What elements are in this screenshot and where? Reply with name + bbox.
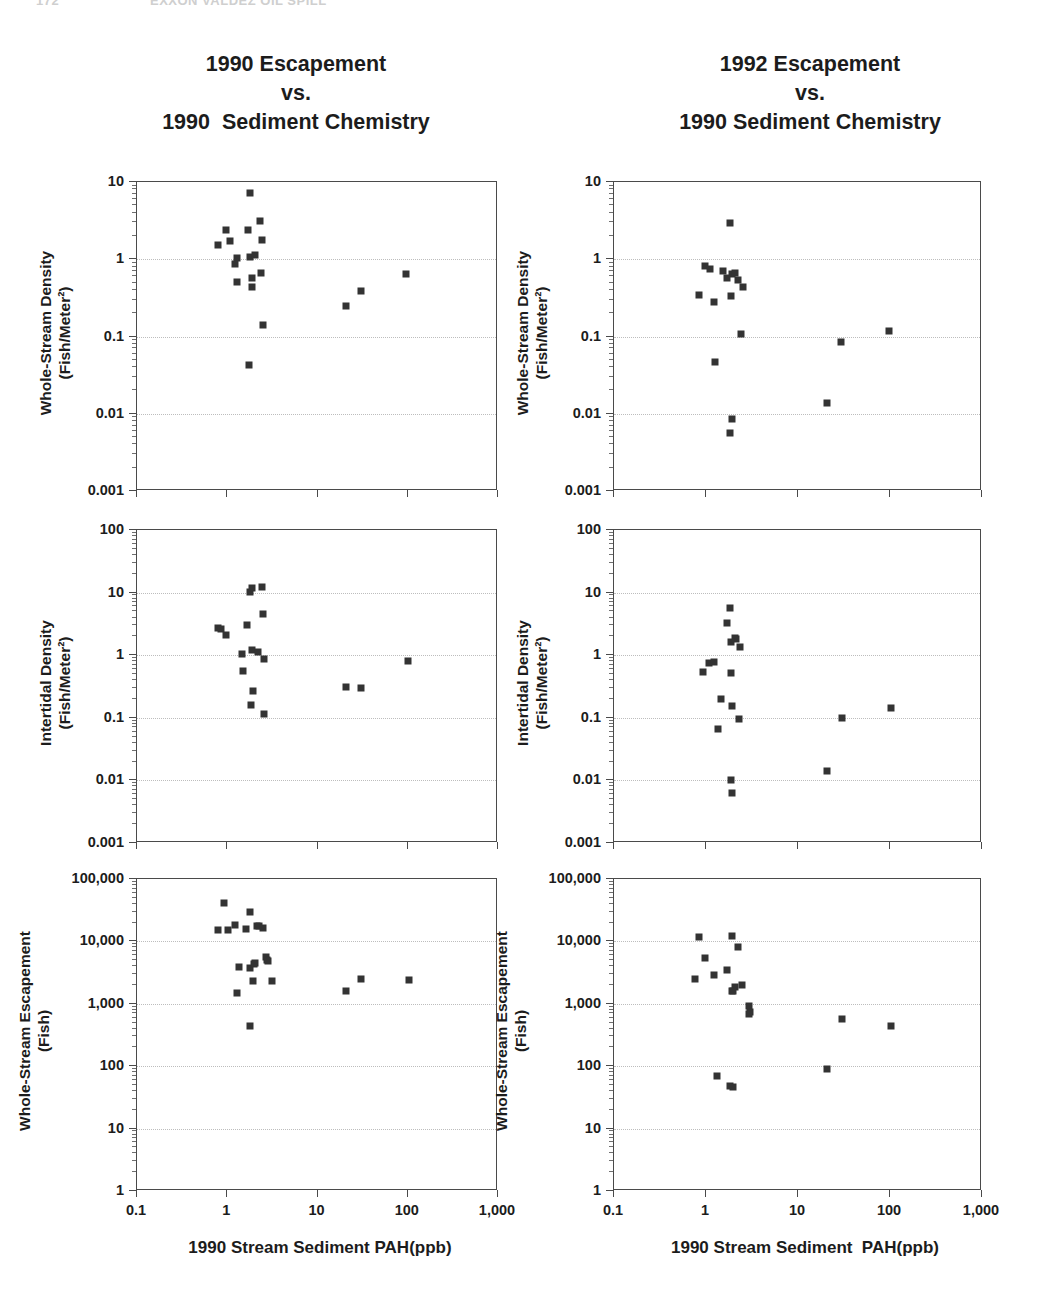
y-axis-title: Whole-Stream Escapement (Fish): [492, 855, 530, 1207]
y-axis-minor-tick: [609, 943, 613, 944]
y-axis-minor-tick: [609, 1134, 613, 1135]
y-axis-minor-tick: [609, 973, 613, 974]
plot-frame: [613, 878, 981, 1190]
y-axis-minor-tick: [609, 881, 613, 882]
y-axis-minor-tick: [609, 1109, 613, 1110]
data-point: [695, 934, 702, 941]
x-axis-tick-label: 100: [877, 1202, 901, 1218]
y-axis-minor-tick: [609, 954, 613, 955]
gridline-horizontal: [614, 1004, 980, 1005]
y-axis-minor-tick: [609, 922, 613, 923]
y-axis-minor-tick: [609, 1090, 613, 1091]
y-axis-minor-tick: [609, 1035, 613, 1036]
y-axis-minor-tick: [609, 950, 613, 951]
data-point: [724, 967, 731, 974]
y-axis-minor-tick: [609, 1079, 613, 1080]
y-axis-minor-tick: [609, 1141, 613, 1142]
data-point: [738, 981, 745, 988]
x-axis-tick-label: 0.1: [603, 1202, 623, 1218]
y-axis-minor-tick: [609, 1028, 613, 1029]
y-axis-minor-tick: [609, 1006, 613, 1007]
data-point: [729, 1084, 736, 1091]
y-axis-minor-tick: [609, 1130, 613, 1131]
x-axis-tick: [981, 1190, 982, 1197]
y-axis-minor-tick: [609, 1046, 613, 1047]
x-axis-title-right: 1990 Stream Sediment PAH(ppb): [585, 1238, 1025, 1258]
y-axis-minor-tick: [609, 965, 613, 966]
gridline-horizontal: [614, 1066, 980, 1067]
chart-panel-6: 100,00010,0001,0001001010.11101001,000Wh…: [0, 0, 1046, 1302]
y-axis-tick-label: 100: [541, 1057, 601, 1073]
y-axis-minor-tick: [609, 1146, 613, 1147]
y-axis-tick-label: 1,000: [541, 995, 601, 1011]
x-axis-tick: [797, 1190, 798, 1197]
data-point: [728, 932, 735, 939]
y-axis-minor-tick: [609, 1071, 613, 1072]
y-axis-tick: [606, 940, 613, 941]
x-axis-tick-label: 1,000: [963, 1202, 999, 1218]
data-point: [735, 944, 742, 951]
y-axis-minor-tick: [609, 1152, 613, 1153]
y-axis-minor-tick: [609, 1017, 613, 1018]
x-axis-tick-label: 1: [701, 1202, 709, 1218]
y-axis-minor-tick: [609, 1098, 613, 1099]
y-axis-minor-tick: [609, 1137, 613, 1138]
y-axis-minor-tick: [609, 1068, 613, 1069]
y-axis-minor-tick: [609, 892, 613, 893]
data-point: [713, 1073, 720, 1080]
y-axis-minor-tick: [609, 946, 613, 947]
y-axis-tick-label: 10,000: [541, 932, 601, 948]
data-point: [745, 1011, 752, 1018]
data-point: [887, 1023, 894, 1030]
x-axis-tick: [705, 1190, 706, 1197]
y-axis-minor-tick: [609, 897, 613, 898]
y-axis-tick: [606, 878, 613, 879]
y-axis-minor-tick: [609, 1160, 613, 1161]
gridline-horizontal: [614, 1129, 980, 1130]
x-axis-title-left: 1990 Stream Sediment PAH(ppb): [100, 1238, 540, 1258]
data-point: [823, 1065, 830, 1072]
y-axis-tick-label: 1: [541, 1182, 601, 1198]
x-axis-tick: [613, 1190, 614, 1197]
y-axis-minor-tick: [609, 911, 613, 912]
y-axis-minor-tick: [609, 1009, 613, 1010]
y-axis-minor-tick: [609, 1171, 613, 1172]
y-axis-minor-tick: [609, 1075, 613, 1076]
y-axis-tick-label: 10: [541, 1120, 601, 1136]
y-axis-minor-tick: [609, 884, 613, 885]
y-axis-tick: [606, 1003, 613, 1004]
y-axis-minor-tick: [609, 1084, 613, 1085]
data-point: [692, 975, 699, 982]
y-axis-tick-label: 100,000: [541, 870, 601, 886]
data-point: [702, 955, 709, 962]
gridline-horizontal: [614, 941, 980, 942]
y-axis-tick: [606, 1065, 613, 1066]
data-point: [729, 988, 736, 995]
y-axis-minor-tick: [609, 1012, 613, 1013]
data-point: [710, 972, 717, 979]
x-axis-tick: [889, 1190, 890, 1197]
y-axis-minor-tick: [609, 1022, 613, 1023]
x-axis-tick-label: 10: [789, 1202, 805, 1218]
y-axis-minor-tick: [609, 888, 613, 889]
data-point: [839, 1016, 846, 1023]
y-axis-minor-tick: [609, 903, 613, 904]
y-axis-minor-tick: [609, 959, 613, 960]
y-axis-tick: [606, 1190, 613, 1191]
y-axis-minor-tick: [609, 984, 613, 985]
y-axis-tick: [606, 1128, 613, 1129]
